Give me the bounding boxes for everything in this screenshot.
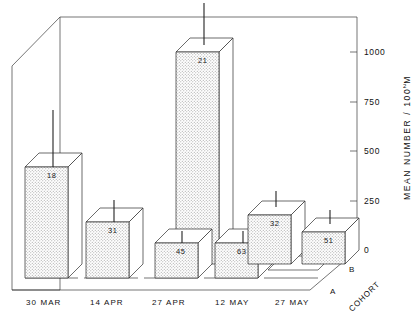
x-axis-labels: 30 MAR 14 APR 27 APR 12 MAY 27 MAY — [26, 298, 309, 307]
chart-canvas: 1000 750 500 250 0 MEAN NUMBER / 100 M 2 — [0, 0, 418, 316]
y-tick-label-0: 0 — [364, 245, 369, 255]
bar-7-value-label: 51 — [324, 236, 333, 245]
x-label-30-mar: 30 MAR — [26, 298, 62, 307]
depth-label-a: A — [330, 287, 336, 296]
x-label-14-apr: 14 APR — [90, 298, 124, 307]
x-label-12-may: 12 MAY — [215, 298, 249, 307]
bar-6-value-label: 32 — [270, 219, 279, 228]
depth-axis-labels: B A COHORT — [330, 265, 382, 313]
y-tick-label-750: 750 — [364, 97, 380, 107]
y-tick-label-250: 250 — [364, 196, 380, 206]
depth-axis-title: COHORT — [347, 280, 382, 314]
bar-group-1[interactable]: 18 — [25, 110, 82, 278]
bar-group-3[interactable]: 21 — [176, 3, 233, 264]
bar-group-6[interactable]: 32 — [248, 191, 305, 264]
bar-1-value-label: 18 — [47, 171, 56, 180]
bar-1-side — [68, 153, 82, 278]
chart-figure: 1000 750 500 250 0 MEAN NUMBER / 100 M 2 — [0, 0, 418, 316]
bar-2-value-label: 31 — [108, 226, 117, 235]
bar-3-value-label: 21 — [198, 56, 207, 65]
y-axis-title: MEAN NUMBER / 100 M — [402, 75, 412, 200]
bar-group-2[interactable]: 31 — [86, 200, 143, 278]
y-tick-label-500: 500 — [364, 146, 380, 156]
bar-4-value-label: 45 — [176, 247, 185, 256]
bar-group-4[interactable]: 45 — [155, 229, 212, 278]
bar-1-front — [25, 167, 68, 278]
bar-group-7[interactable]: 51 — [302, 210, 359, 264]
bar-5-value-label: 63 — [237, 247, 246, 256]
x-label-27-may: 27 MAY — [275, 298, 309, 307]
y-axis-title-group: MEAN NUMBER / 100 M — [402, 75, 412, 200]
x-label-27-apr: 27 APR — [152, 298, 186, 307]
depth-label-b: B — [349, 265, 355, 274]
y-tick-label-1000: 1000 — [364, 47, 385, 57]
